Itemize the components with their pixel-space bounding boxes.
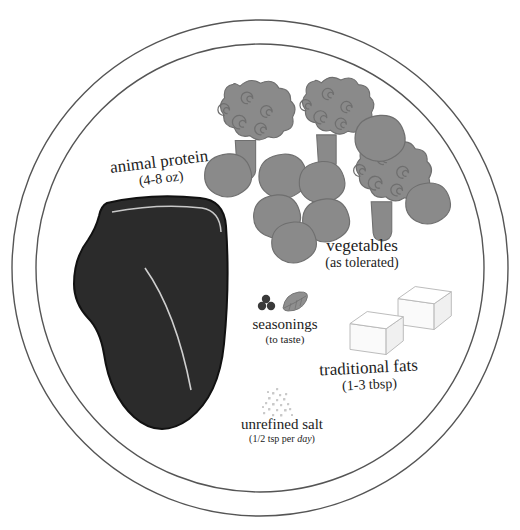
label-vegetables-sub: (as tolerated) [296,255,428,271]
salt-grains-icon [262,388,293,416]
salt-sub-prefix: (1/2 tsp per [249,433,297,444]
peppercorns-icon [258,295,275,310]
label-vegetables: vegetables (as tolerated) [296,236,428,271]
brussels-sprout-8 [406,183,451,224]
label-seasonings: seasonings (to taste) [228,316,342,345]
label-unrefined-salt-sub: (1/2 tsp per day) [216,433,348,444]
label-unrefined-salt: unrefined salt (1/2 tsp per day) [216,416,348,444]
salt-sub-emphasis: day [297,433,311,444]
steak-shape [74,196,228,429]
label-unrefined-salt-main: unrefined salt [216,416,348,433]
plate-diagram [0,0,520,530]
brussels-sprout-4 [299,161,345,203]
label-seasonings-sub: (to taste) [228,333,342,345]
ideal-meal-illustration: The Ideal Meal [0,0,520,530]
bay-leaf-icon [283,292,307,311]
butter-cube-2 [350,312,403,355]
salt-sub-suffix: ) [312,433,315,444]
label-vegetables-main: vegetables [296,236,428,255]
brussels-sprout-2 [355,115,405,161]
label-seasonings-main: seasonings [228,316,342,333]
butter-cube-1 [398,287,451,330]
